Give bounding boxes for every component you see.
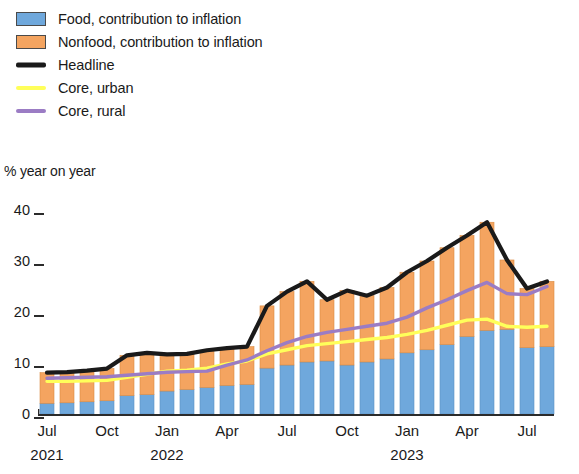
y-axis-tick-label: 20 [8,304,30,320]
bar-food [380,359,394,414]
bar-nonfood [360,296,374,362]
bar-food [220,385,234,414]
bar-food [100,401,114,414]
bar-food [200,387,214,414]
legend-item-food: Food, contribution to inflation [16,8,263,30]
bar-food [80,402,94,414]
legend-core-rural-label: Core, rural [58,103,125,119]
bar-food [460,336,474,414]
bar-food [440,345,454,414]
bar-nonfood [80,371,94,402]
y-axis-tick-label: 30 [8,253,30,269]
bar-food [40,403,54,414]
x-axis-month-label: Jan [155,422,179,439]
legend-core-urban-swatch [16,81,46,95]
legend-headline-label: Headline [58,57,114,73]
legend-core-rural-swatch [16,104,46,118]
bar-food [420,350,434,414]
y-axis-tick-label: 40 [8,202,30,218]
bar-food [340,365,354,414]
bar-food [320,361,334,414]
bar-food [120,396,134,414]
legend-item-core-urban: Core, urban [16,77,263,99]
legend-item-headline: Headline [16,54,263,76]
x-axis-month-label: Jul [277,422,296,439]
bar-food [480,330,494,414]
x-axis-month-label: Jan [395,422,419,439]
legend-core-urban-label: Core, urban [58,80,133,96]
legend-nonfood-swatch [16,35,46,49]
bar-nonfood [240,347,254,385]
legend-food-label: Food, contribution to inflation [58,11,241,27]
bar-food [240,384,254,414]
bar-nonfood [300,281,314,362]
bar-food [60,403,74,414]
x-axis-month-label: Jul [517,422,536,439]
bar-food [180,390,194,414]
bar-food [540,347,554,414]
bar-nonfood [400,272,414,353]
x-axis-month-label: Oct [335,422,358,439]
x-axis-year-label: 2021 [30,446,63,463]
bar-food [260,368,274,414]
legend-nonfood-label: Nonfood, contribution to inflation [58,34,263,50]
chart-legend: Food, contribution to inflation Nonfood,… [16,8,263,122]
bar-food [500,329,514,414]
bar-nonfood [100,369,114,401]
x-axis-year-label: 2022 [150,446,183,463]
bar-nonfood [280,292,294,365]
bar-nonfood [480,222,494,330]
x-axis-month-label: Jul [37,422,56,439]
bar-nonfood [520,289,534,348]
y-axis-tick-label: 10 [8,355,30,371]
bar-nonfood [540,281,554,346]
x-axis-month-label: Apr [215,422,238,439]
bar-food [140,395,154,414]
x-axis-month-label: Apr [455,422,478,439]
legend-headline-swatch [16,58,46,72]
x-axis: Jul2021OctJan2022AprJulOctJan2023AprJul [0,418,579,474]
y-axis-title: % year on year [4,163,95,179]
chart-canvas [38,196,566,426]
bar-food [280,365,294,414]
legend-item-core-rural: Core, rural [16,100,263,122]
bar-food [520,348,534,414]
chart-plot-area: 403020100 [0,196,579,426]
baseline-group [38,409,554,415]
x-axis-year-label: 2023 [390,446,423,463]
chart-svg [38,196,566,426]
bar-food [160,391,174,414]
legend-food-swatch [16,12,46,26]
bar-food [360,362,374,414]
legend-item-nonfood: Nonfood, contribution to inflation [16,31,263,53]
x-axis-month-label: Oct [95,422,118,439]
bar-food [400,353,414,414]
bar-food [300,362,314,414]
